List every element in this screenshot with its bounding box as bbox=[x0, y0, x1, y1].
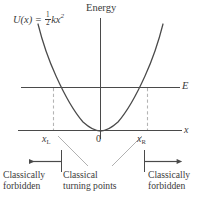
forbidden-right-line2: forbidden bbox=[148, 181, 190, 192]
turning-point-right-label: xR bbox=[137, 133, 146, 145]
origin-label: 0 bbox=[96, 133, 101, 144]
harmonic-oscillator-figure: U(x) = 12kx2 Energy E x 0 xL xR Classica… bbox=[0, 0, 207, 203]
energy-axis-label: Energy bbox=[86, 2, 116, 14]
turning-points-caption-line2: turning points bbox=[63, 181, 117, 192]
forbidden-region-right-label: Classicallyforbidden bbox=[148, 170, 190, 191]
turning-point-left-label: xL bbox=[42, 133, 50, 145]
one-half-fraction: 12 bbox=[45, 12, 51, 28]
x-axis-label: x bbox=[184, 124, 188, 135]
turning-point-right-subscript: R bbox=[141, 138, 145, 145]
energy-level-label: E bbox=[182, 80, 188, 92]
turning-points-caption-line1: Classical bbox=[63, 169, 98, 180]
potential-formula-exponent: 2 bbox=[61, 12, 65, 20]
fraction-denominator: 2 bbox=[45, 20, 51, 27]
forbidden-left-line1: Classically bbox=[3, 169, 45, 180]
potential-formula-label: U(x) = 12kx2 bbox=[13, 12, 64, 28]
potential-formula-base: kx bbox=[51, 14, 60, 25]
forbidden-region-left-label: Classicallyforbidden bbox=[3, 170, 45, 191]
turning-point-left-subscript: L bbox=[46, 138, 50, 145]
leader-line-left bbox=[58, 136, 88, 166]
turning-points-caption: Classicalturning points bbox=[63, 170, 117, 191]
potential-formula-prefix: U(x) = bbox=[13, 14, 45, 25]
forbidden-left-line2: forbidden bbox=[3, 181, 45, 192]
forbidden-right-line1: Classically bbox=[148, 169, 190, 180]
